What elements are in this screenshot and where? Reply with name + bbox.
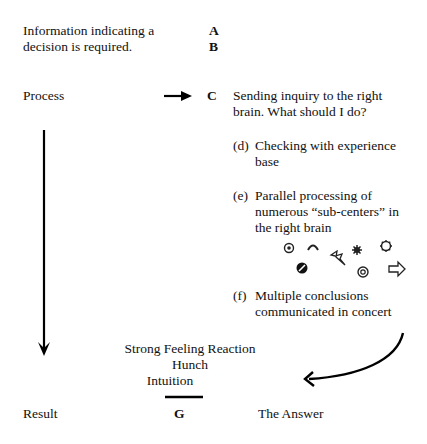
target-icon	[358, 267, 368, 277]
lightning-icon	[331, 251, 345, 265]
arrow-down-icon	[38, 130, 50, 356]
curved-arrow-icon	[305, 333, 403, 386]
arrow-right-outline-icon	[389, 262, 405, 276]
gear-icon	[352, 245, 362, 255]
arc-icon	[308, 246, 318, 251]
diagram-graphics	[0, 0, 427, 444]
target-icon	[285, 244, 294, 253]
arrow-right-icon	[164, 91, 192, 101]
no-entry-icon	[297, 263, 308, 274]
sun-icon	[380, 240, 392, 252]
